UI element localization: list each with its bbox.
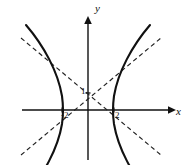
y-tick-label-one: 1 xyxy=(81,87,86,96)
x-axis xyxy=(22,106,176,114)
asymptotes xyxy=(21,38,161,155)
x-axis-arrow-icon xyxy=(168,106,176,114)
x-axis-label: x xyxy=(176,106,181,117)
hyperbola-left-branch xyxy=(26,25,63,165)
hyperbola-plot xyxy=(0,0,191,165)
y-axis-label: y xyxy=(95,3,100,14)
hyperbola-right-branch xyxy=(113,25,150,165)
x-tick-label-pos2: 2 xyxy=(115,111,120,120)
hyperbola-figure: y x -2 2 1 xyxy=(0,0,191,165)
y-axis-arrow-icon xyxy=(84,16,92,24)
x-tick-label-neg2: -2 xyxy=(61,111,69,120)
